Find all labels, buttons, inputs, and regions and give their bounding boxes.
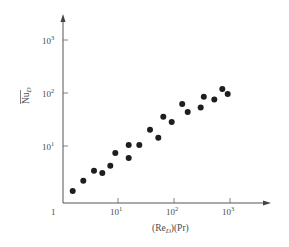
- data-point: [107, 163, 113, 169]
- x-axis-title: (ReD)(Pr): [152, 223, 189, 235]
- y-tick-label-10-1: 101: [42, 140, 54, 152]
- data-point: [155, 135, 161, 141]
- data-point: [179, 101, 185, 107]
- data-point: [211, 97, 217, 103]
- scatter-chart: 101 102 103 1 101 102 103 (ReD)(Pr) NuD: [0, 0, 289, 247]
- x-tick-label-10-3: 103: [222, 205, 234, 217]
- data-point: [185, 109, 191, 115]
- y-axis-arrow-icon: [61, 14, 66, 22]
- data-point: [136, 142, 142, 148]
- data-point: [147, 127, 153, 133]
- x-tick-label-10-2: 102: [166, 205, 178, 217]
- data-point: [70, 188, 76, 194]
- svg-text:NuD: NuD: [21, 87, 33, 104]
- x-ticks: [118, 198, 230, 203]
- data-points: [70, 86, 231, 194]
- data-point: [169, 119, 175, 125]
- data-point: [80, 178, 86, 184]
- data-point: [91, 168, 97, 174]
- data-point: [225, 91, 231, 97]
- data-point: [198, 104, 204, 110]
- x-tick-label-1: 1: [51, 207, 56, 217]
- x-tick-label-10-1: 101: [110, 205, 122, 217]
- y-tick-label-10-3: 103: [42, 34, 54, 46]
- x-axis-arrow-icon: [263, 201, 271, 206]
- y-tick-label-10-2: 102: [42, 87, 54, 99]
- y-axis-title: NuD: [21, 87, 34, 104]
- data-point: [112, 150, 118, 156]
- y-ticks: [63, 40, 68, 146]
- data-point: [219, 86, 225, 92]
- data-point: [126, 155, 132, 161]
- data-point: [201, 94, 207, 100]
- data-point: [160, 114, 166, 120]
- data-point: [99, 170, 105, 176]
- data-point: [126, 142, 132, 148]
